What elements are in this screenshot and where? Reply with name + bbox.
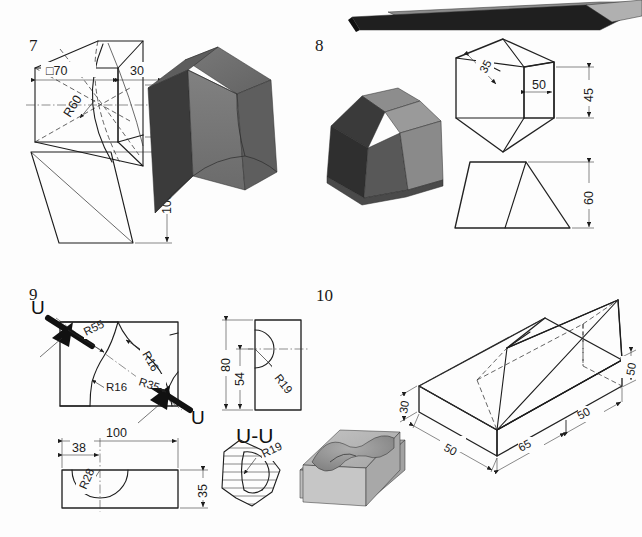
figure-9-dim-38: 38 — [72, 441, 86, 455]
figure-8-dim-60: 60 — [582, 191, 596, 205]
figure-8-dim-45: 45 — [582, 88, 596, 102]
figure-9-section-view: U-U R19 — [164, 424, 300, 512]
dim-width-30: 30 — [120, 62, 163, 80]
figure-7: 7 — [26, 36, 277, 243]
figure-8: 8 — [315, 36, 596, 228]
dim-height-54: 54 — [230, 349, 253, 409]
dim-length-50-right: 50 — [566, 388, 622, 434]
dim-radius-19-side: R19 — [268, 362, 298, 396]
figure-7-dim-r60: R60 — [61, 93, 85, 120]
figure-9-dim-54: 54 — [233, 372, 247, 386]
dim-radius-16-lower: R16 — [92, 380, 132, 394]
shaded-solid-8 — [327, 88, 443, 205]
drawing-sheet: 7 — [0, 0, 642, 537]
figure-10: 10 — [303, 286, 638, 506]
dim-length-65: 65 — [497, 420, 566, 472]
dim-height-35: 35 — [180, 470, 210, 508]
shaded-solid-7 — [148, 47, 277, 213]
dim-height-80: 80 — [216, 320, 253, 410]
figure-10-isometric: 30 50 65 — [394, 300, 638, 472]
figure-7-dim-30w: 30 — [130, 64, 144, 78]
dim-radius-28: R28 — [76, 467, 100, 494]
cropped-dark-solid — [348, 0, 642, 32]
section-mark-u-left: U — [31, 297, 45, 318]
figure-9-side-view: 80 54 R19 — [216, 320, 308, 410]
section-mark-u-right: U — [191, 407, 205, 428]
figure-10-number: 10 — [316, 286, 333, 305]
dim-offset-38: 38 — [63, 440, 99, 455]
drawing-canvas: 7 — [0, 0, 642, 537]
section-title-uu: U-U — [236, 424, 273, 447]
shaded-solid-10 — [303, 430, 400, 506]
dim-square-70: □70 — [36, 62, 118, 80]
figure-10-dim-50-vertical: 50 — [624, 362, 638, 377]
figure-7-number: 7 — [29, 36, 38, 55]
figure-9-dim-35: 35 — [196, 484, 210, 498]
dim-depth-35: 35 — [469, 56, 496, 84]
figure-9-dim-100: 100 — [106, 426, 127, 440]
figure-9-top-view: U U R55 R16 — [31, 297, 205, 428]
dim-height-60: 60 — [528, 162, 596, 228]
dim-height-45: 45 — [556, 67, 596, 118]
figure-9-dim-r16-lower: R16 — [106, 381, 127, 393]
dim-width-50: 50 — [526, 77, 552, 92]
dim-height-50-vertical: 50 — [620, 350, 638, 388]
figure-9-bottom-view: 100 38 R28 35 — [62, 424, 210, 512]
figure-8-number: 8 — [315, 36, 324, 55]
figure-8-dim-50: 50 — [532, 78, 546, 92]
figure-8-top-view: 35 50 45 — [456, 39, 596, 152]
figure-7-dim-square70: □70 — [46, 64, 68, 78]
dim-height-30: 30 — [394, 386, 417, 422]
dim-radius-60: R60 — [61, 93, 95, 120]
figure-8-front-view: 60 — [455, 162, 596, 228]
figure-10-dim-30: 30 — [397, 400, 411, 415]
dim-radius-16-upper: R16 — [126, 340, 168, 373]
